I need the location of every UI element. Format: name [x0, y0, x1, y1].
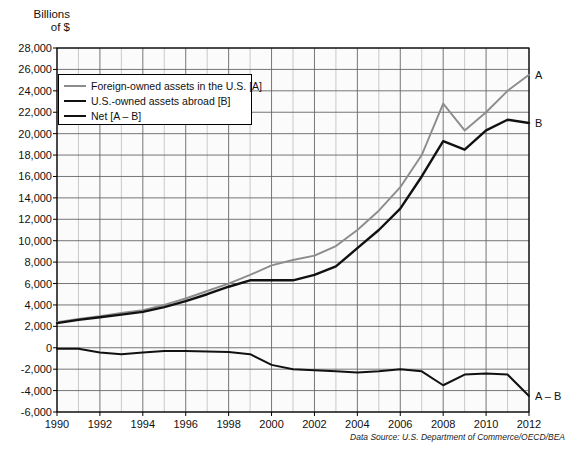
y-tick-label: 18,000 [0, 149, 52, 161]
legend-swatch-a-icon [64, 85, 86, 87]
end-label-A: A [535, 69, 542, 81]
y-tick-label: 22,000 [0, 106, 52, 118]
legend-swatch-b-icon [64, 100, 86, 102]
legend-label-net: Net [A – B] [91, 110, 141, 122]
legend-item-net: Net [A – B] [64, 108, 246, 123]
legend-swatch-net-icon [64, 115, 86, 117]
legend-item-b: U.S.-owned assets abroad [B] [64, 93, 246, 108]
y-tick-label: -2,000 [0, 363, 52, 375]
end-label-A-B: A – B [535, 390, 561, 402]
x-tick-label: 2006 [380, 418, 420, 430]
y-tick-label: 16,000 [0, 170, 52, 182]
source-note: Data Source: U.S. Department of Commerce… [350, 432, 565, 442]
x-tick-label: 1992 [80, 418, 120, 430]
y-tick-label: 28,000 [0, 42, 52, 54]
y-tick-label: 26,000 [0, 63, 52, 75]
y-tick-label: 4,000 [0, 299, 52, 311]
x-tick-label: 2010 [466, 418, 506, 430]
y-tick-label: 0 [0, 342, 52, 354]
y-tick-label: 2,000 [0, 320, 52, 332]
x-tick-label: 1994 [123, 418, 163, 430]
chart-container: Billionsof $ 28,00026,00024,00022,00020,… [0, 0, 577, 459]
legend-item-a: Foreign-owned assets in the U.S. [A] [64, 78, 246, 93]
y-tick-label: 14,000 [0, 192, 52, 204]
x-tick-label: 2004 [337, 418, 377, 430]
x-tick-label: 2000 [252, 418, 292, 430]
x-tick-label: 1996 [166, 418, 206, 430]
y-tick-label: -6,000 [0, 406, 52, 418]
plot-area [0, 0, 577, 459]
x-tick-label: 1998 [209, 418, 249, 430]
x-tick-label: 2012 [509, 418, 549, 430]
x-tick-label: 2008 [423, 418, 463, 430]
y-tick-label: 20,000 [0, 128, 52, 140]
x-tick-label: 1990 [37, 418, 77, 430]
y-tick-label: 6,000 [0, 278, 52, 290]
y-tick-label: 8,000 [0, 256, 52, 268]
legend-label-a: Foreign-owned assets in the U.S. [A] [91, 80, 262, 92]
end-label-B: B [535, 117, 542, 129]
x-tick-label: 2002 [294, 418, 334, 430]
y-tick-label: 12,000 [0, 213, 52, 225]
y-tick-label: -4,000 [0, 385, 52, 397]
y-tick-label: 10,000 [0, 235, 52, 247]
legend-label-b: U.S.-owned assets abroad [B] [91, 95, 231, 107]
legend: Foreign-owned assets in the U.S. [A] U.S… [58, 74, 252, 125]
y-tick-label: 24,000 [0, 85, 52, 97]
